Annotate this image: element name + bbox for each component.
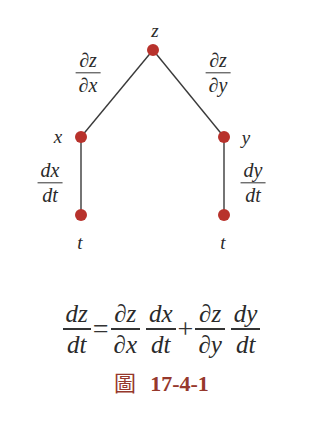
figure-prefix: 圖 xyxy=(114,371,136,396)
fraction-bar xyxy=(111,328,140,329)
figure-caption: 圖17-4-1 xyxy=(0,365,323,397)
term2-partial-fraction: ∂z ∂y xyxy=(195,301,224,356)
fraction-denominator: ∂x xyxy=(76,76,101,96)
node-t-right xyxy=(218,209,230,221)
fraction-denominator: dt xyxy=(242,186,264,206)
node-label-y: y xyxy=(242,128,250,147)
fraction-bar xyxy=(76,72,101,73)
fraction-denominator: dt xyxy=(148,332,173,357)
edge-label-dz-dy: ∂z ∂y xyxy=(206,50,231,95)
fraction-numerator: dz xyxy=(63,301,91,326)
fraction-numerator: dx xyxy=(146,301,176,326)
tree-diagram xyxy=(0,0,323,260)
fraction-bar xyxy=(206,72,231,73)
fraction-bar xyxy=(195,328,224,329)
figure-number: 17-4-1 xyxy=(150,371,209,396)
fraction-numerator: ∂z xyxy=(76,50,100,70)
term1-derivative-fraction: dx dt xyxy=(146,301,176,356)
fraction-numerator: dy xyxy=(241,160,266,180)
fraction-denominator: ∂x xyxy=(111,332,140,357)
edge-label-dx-dt: dx dt xyxy=(38,160,63,205)
fraction-numerator: ∂z xyxy=(111,301,139,326)
plus-sign: + xyxy=(176,313,196,345)
fraction-denominator: ∂y xyxy=(195,332,224,357)
lhs-fraction: dz dt xyxy=(63,301,91,356)
node-label-t-left: t xyxy=(77,233,82,252)
chain-rule-formula: dz dt = ∂z ∂x dx dt + ∂z ∂y dy dt xyxy=(0,296,323,362)
fraction-denominator: ∂y xyxy=(206,76,231,96)
node-x xyxy=(75,131,87,143)
term1-partial-fraction: ∂z ∂x xyxy=(111,301,140,356)
node-y xyxy=(218,131,230,143)
term2-derivative-fraction: dy dt xyxy=(231,301,261,356)
equals-sign: = xyxy=(91,313,111,345)
fraction-numerator: ∂z xyxy=(196,301,224,326)
fraction-bar xyxy=(231,328,261,329)
node-z xyxy=(147,44,159,56)
fraction-bar xyxy=(63,328,91,329)
node-t-left xyxy=(75,209,87,221)
fraction-denominator: dt xyxy=(233,332,258,357)
fraction-numerator: dx xyxy=(38,160,63,180)
node-label-z: z xyxy=(151,21,158,40)
fraction-bar xyxy=(38,182,63,183)
fraction-numerator: ∂z xyxy=(206,50,230,70)
node-label-t-right: t xyxy=(220,233,225,252)
fraction-bar xyxy=(241,182,266,183)
fraction-bar xyxy=(146,328,176,329)
fraction-numerator: dy xyxy=(231,301,261,326)
edge-label-dz-dx: ∂z ∂x xyxy=(76,50,101,95)
fraction-denominator: dt xyxy=(39,186,61,206)
edge-label-dy-dt: dy dt xyxy=(241,160,266,205)
fraction-denominator: dt xyxy=(64,332,89,357)
node-label-x: x xyxy=(54,127,62,146)
